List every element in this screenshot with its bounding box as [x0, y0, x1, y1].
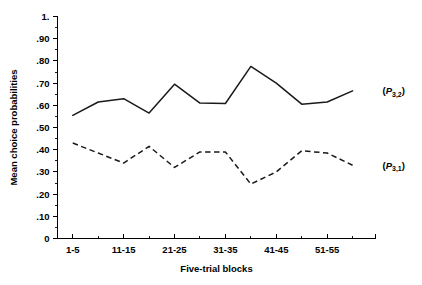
y-tick-label: .80 — [36, 55, 49, 66]
x-tick-label: 1-5 — [66, 244, 80, 255]
y-tick-label: .20 — [36, 189, 49, 200]
legend-subscript: 3,1 — [392, 165, 402, 173]
data-series-group — [73, 66, 353, 184]
chart-legend: (P3,2)(P3,1) — [383, 85, 405, 173]
x-tick-label: 31-35 — [213, 244, 238, 255]
x-tick-label: 41-45 — [264, 244, 289, 255]
legend-label-1: (P3,2) — [383, 85, 405, 99]
y-tick-label: 0 — [44, 233, 49, 244]
y-tick-label: .60 — [36, 100, 49, 111]
y-tick-label: .30 — [36, 166, 49, 177]
legend-paren-close: ) — [402, 85, 405, 96]
y-tick-label: .40 — [36, 144, 49, 155]
x-tick-label: 11-15 — [112, 244, 136, 255]
x-axis: 1-511-1521-2531-3541-4551-55 — [58, 234, 376, 255]
series-line-1 — [73, 66, 353, 115]
y-tick-label: .10 — [36, 211, 49, 222]
x-tick-label: 21-25 — [162, 244, 187, 255]
legend-subscript: 3,2 — [392, 91, 402, 99]
legend-paren-close: ) — [402, 160, 405, 171]
y-axis-title: Mean choice probabilities — [8, 69, 19, 185]
line-chart: 0.10.20.30.40.50.60.70.80.901. 1-511-152… — [0, 0, 422, 285]
y-tick-label: .70 — [36, 78, 49, 89]
y-tick-label: 1. — [42, 11, 50, 22]
series-line-2 — [73, 143, 353, 184]
legend-label-2: (P3,1) — [383, 160, 405, 174]
y-tick-label: .50 — [36, 122, 49, 133]
y-axis: 0.10.20.30.40.50.60.70.80.901. — [36, 11, 57, 244]
x-axis-title: Five-trial blocks — [180, 263, 252, 274]
y-tick-label: .90 — [36, 33, 49, 44]
chart-figure: 0.10.20.30.40.50.60.70.80.901. 1-511-152… — [0, 0, 422, 285]
x-tick-label: 51-55 — [315, 244, 340, 255]
